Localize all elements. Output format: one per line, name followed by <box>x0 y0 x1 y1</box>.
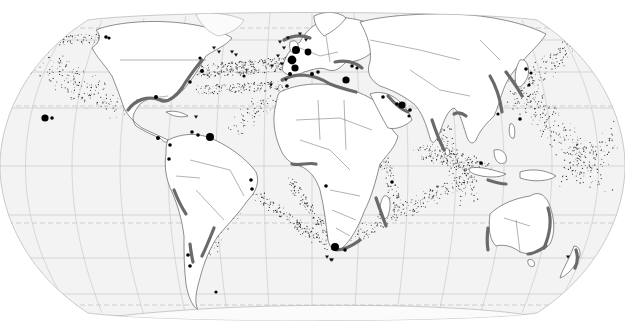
point-marker <box>167 157 171 161</box>
point-marker <box>242 74 245 77</box>
point-marker <box>214 290 217 293</box>
point-marker <box>285 84 289 88</box>
point-marker <box>292 46 300 54</box>
point-marker <box>408 108 412 112</box>
point-marker <box>518 117 522 121</box>
point-marker <box>310 72 314 76</box>
point-marker <box>324 184 328 188</box>
point-marker <box>200 69 204 73</box>
point-marker <box>288 56 297 65</box>
philippines <box>509 124 515 139</box>
point-marker <box>331 243 339 251</box>
point-marker <box>156 136 160 140</box>
point-marker <box>107 36 110 39</box>
point-marker <box>342 76 349 83</box>
point-marker <box>188 264 192 268</box>
point-marker <box>186 253 190 257</box>
point-marker <box>343 248 347 252</box>
point-marker <box>249 178 253 182</box>
coastal-zone <box>487 228 488 250</box>
point-marker <box>50 116 54 120</box>
point-marker <box>104 35 108 39</box>
point-marker <box>496 112 499 115</box>
point-marker <box>288 72 292 76</box>
point-marker <box>527 83 530 86</box>
point-marker <box>198 56 201 59</box>
point-marker <box>190 130 194 134</box>
point-marker <box>291 64 298 71</box>
point-marker <box>206 133 214 141</box>
point-marker <box>407 114 410 117</box>
point-marker <box>196 133 200 137</box>
point-marker <box>381 95 385 99</box>
point-marker <box>154 95 158 99</box>
point-marker <box>398 101 405 108</box>
point-marker <box>41 114 48 121</box>
point-marker <box>529 71 532 74</box>
point-marker <box>168 143 172 147</box>
point-marker <box>305 49 312 56</box>
point-marker <box>250 187 254 191</box>
point-marker <box>350 64 354 68</box>
coastal-zone <box>292 163 316 164</box>
point-marker <box>355 66 358 69</box>
point-marker <box>316 70 320 74</box>
world-map <box>0 0 625 333</box>
point-marker <box>395 102 399 106</box>
point-marker <box>390 180 394 184</box>
point-marker <box>479 161 483 165</box>
point-marker <box>188 80 192 84</box>
point-marker <box>524 67 528 71</box>
